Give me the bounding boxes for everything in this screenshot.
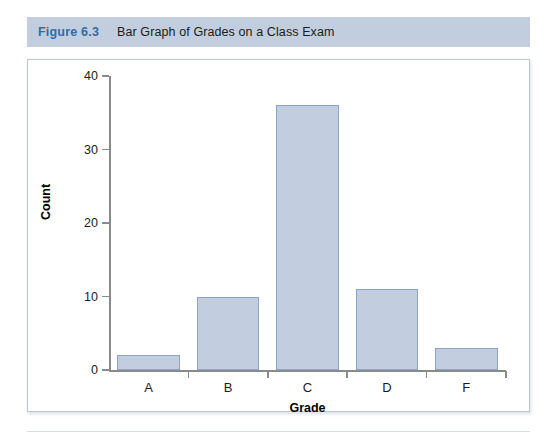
- x-axis-tick-mark: [426, 371, 428, 378]
- bar-c: [276, 105, 339, 370]
- x-axis-tick-label-c: C: [303, 380, 312, 395]
- y-axis-title: Count: [39, 184, 53, 220]
- y-axis-tick-label: 40: [58, 69, 98, 83]
- x-axis-title: Grade: [109, 401, 506, 415]
- figure-frame: 010203040 ABCDF Count Grade: [27, 59, 530, 412]
- bar-a: [117, 355, 180, 370]
- y-axis-tick-label: 0: [58, 363, 98, 377]
- x-axis-line: [109, 370, 506, 372]
- figure-title-label: Bar Graph of Grades on a Class Exam: [117, 25, 334, 39]
- y-axis-tick-label: 30: [58, 143, 98, 157]
- bar-chart-plot-area: 010203040 ABCDF Count Grade: [28, 60, 531, 413]
- x-axis-tick-mark: [188, 371, 190, 378]
- y-axis-tick-mark: [102, 296, 109, 298]
- x-axis-tick-label-d: D: [382, 380, 391, 395]
- x-axis-tick-mark: [346, 371, 348, 378]
- figure-number-label: Figure 6.3: [38, 25, 99, 39]
- x-axis-tick-mark: [505, 371, 507, 378]
- x-axis-tick-label-b: B: [224, 380, 233, 395]
- x-axis-tick-mark: [267, 371, 269, 378]
- y-axis-tick-mark: [102, 149, 109, 151]
- y-axis-tick-mark: [102, 369, 109, 371]
- y-axis-line: [109, 76, 111, 371]
- bar-d: [356, 289, 419, 370]
- y-axis-tick-label: 10: [58, 290, 98, 304]
- x-axis-tick-label-a: A: [144, 380, 153, 395]
- x-axis-tick-label-f: F: [462, 380, 470, 395]
- figure-caption-band: Figure 6.3 Bar Graph of Grades on a Clas…: [27, 17, 530, 47]
- y-axis-tick-label: 20: [58, 216, 98, 230]
- page-bottom-rule: [27, 431, 530, 432]
- bar-b: [197, 297, 260, 371]
- bar-f: [435, 348, 498, 370]
- y-axis-tick-mark: [102, 222, 109, 224]
- y-axis-tick-mark: [102, 75, 109, 77]
